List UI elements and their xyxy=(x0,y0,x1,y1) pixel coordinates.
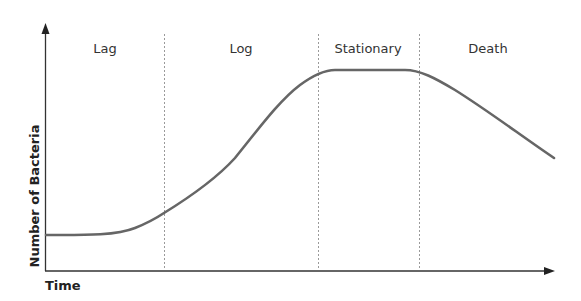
y-axis-arrow-icon xyxy=(42,23,50,34)
x-axis-label: Time xyxy=(45,278,81,293)
phase-label-stationary: Stationary xyxy=(334,41,402,56)
growth-curve xyxy=(46,70,554,235)
phase-label-death: Death xyxy=(468,41,507,56)
phase-label-lag: Lag xyxy=(93,41,116,56)
x-axis-arrow-icon xyxy=(544,267,555,275)
y-axis-label: Number of Bacteria xyxy=(27,125,42,268)
growth-curve-diagram: Lag Log Stationary Death Time Number of … xyxy=(0,0,581,301)
phase-label-log: Log xyxy=(229,41,252,56)
